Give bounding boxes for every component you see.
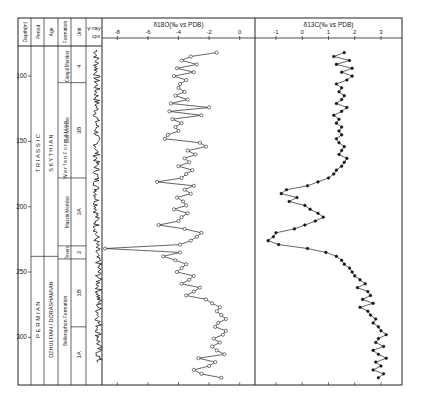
carbon-point xyxy=(369,314,372,317)
oxygen-point xyxy=(211,302,214,305)
oxygen-point xyxy=(174,94,177,97)
oxygen-point xyxy=(174,125,177,128)
header-age: Age xyxy=(48,27,54,36)
member-label: Campil Member xyxy=(65,50,70,82)
carbon-point xyxy=(343,51,346,54)
unit-label: 1A xyxy=(76,351,82,358)
oxygen-point xyxy=(178,243,181,246)
oxygen-point xyxy=(215,310,218,313)
carbon-point xyxy=(340,149,343,152)
carbon-point xyxy=(317,212,320,215)
carbon-point xyxy=(343,145,346,148)
carbon-point xyxy=(348,267,351,270)
oxygen-point xyxy=(191,169,194,172)
carbon-point xyxy=(367,290,370,293)
oxygen-point xyxy=(192,184,195,187)
carbon-tick-label: -1 xyxy=(273,29,279,35)
oxygen-point xyxy=(185,294,188,297)
carbon-point xyxy=(351,271,354,274)
oxygen-point xyxy=(172,208,175,211)
oxygen-point xyxy=(180,282,183,285)
header-period: Period xyxy=(35,25,41,40)
oxygen-point xyxy=(177,86,180,89)
oxygen-point xyxy=(215,349,218,352)
carbon-point xyxy=(338,153,341,156)
carbon-point xyxy=(343,94,346,97)
carbon-point xyxy=(296,196,299,199)
oxygen-point xyxy=(175,270,178,273)
carbon-point xyxy=(293,228,296,231)
oxygen-point xyxy=(214,325,217,328)
oxygen-point xyxy=(198,141,201,144)
oxygen-point xyxy=(204,145,207,148)
oxygen-point xyxy=(197,357,200,360)
carbon-point xyxy=(325,251,328,254)
period-label: T R I A S S I C xyxy=(35,133,41,172)
formation-label: Bellerophon Formation xyxy=(62,295,68,346)
oxygen-point xyxy=(189,55,192,58)
carbon-point xyxy=(351,67,354,70)
header-gamma-unit: cps xyxy=(92,33,100,39)
carbon-point xyxy=(304,204,307,207)
carbon-tick-label: 0 xyxy=(301,29,305,35)
header-unit: Unit xyxy=(76,27,82,37)
carbon-point xyxy=(314,220,317,223)
carbon-point xyxy=(335,122,338,125)
oxygen-point xyxy=(185,263,188,266)
oxygen-point xyxy=(183,227,186,230)
oxygen-point xyxy=(177,219,180,222)
oxygen-point xyxy=(192,368,195,371)
oxygen-point xyxy=(200,372,203,375)
carbon-point xyxy=(353,275,356,278)
oxygen-title: δ18O(‰ vs PDB) xyxy=(153,21,203,29)
depth-tick-label: 200 xyxy=(16,203,27,210)
carbon-point xyxy=(382,373,385,376)
carbon-point xyxy=(340,126,343,129)
unit-label: 3A xyxy=(76,208,82,215)
carbon-point xyxy=(335,63,338,66)
gamma-ray-curve xyxy=(93,50,102,363)
oxygen-tick-label: -4 xyxy=(176,29,182,35)
oxygen-point xyxy=(168,110,171,113)
oxygen-point xyxy=(178,251,181,254)
carbon-point xyxy=(346,157,349,160)
oxygen-point xyxy=(218,341,221,344)
oxygen-curve xyxy=(105,53,226,378)
carbon-point xyxy=(309,208,312,211)
carbon-point xyxy=(340,134,343,137)
carbon-point xyxy=(374,361,377,364)
oxygen-point xyxy=(186,149,189,152)
carbon-point xyxy=(372,302,375,305)
carbon-point xyxy=(280,192,283,195)
carbon-point xyxy=(317,181,320,184)
oxygen-isotope-panel: δ18O(‰ vs PDB)-8-6-4-20 xyxy=(102,21,255,385)
carbon-point xyxy=(285,188,288,191)
oxygen-point xyxy=(180,266,183,269)
oxygen-point xyxy=(162,255,165,258)
carbon-point xyxy=(364,282,367,285)
carbon-point xyxy=(346,106,349,109)
oxygen-point xyxy=(103,247,106,250)
carbon-point xyxy=(275,232,278,235)
unit-label: 3B xyxy=(76,127,82,134)
carbon-point xyxy=(382,345,385,348)
carbon-point xyxy=(385,333,388,336)
carbon-point xyxy=(340,110,343,113)
carbon-point xyxy=(327,177,330,180)
gamma-ray-log xyxy=(93,50,102,363)
carbon-isotope-panel: δ13C(‰ vs PDB)-10123 xyxy=(255,21,402,385)
oxygen-point xyxy=(188,278,191,281)
oxygen-point xyxy=(185,172,188,175)
oxygen-point xyxy=(220,313,223,316)
carbon-point xyxy=(304,224,307,227)
stratigraphic-columns: Depth(m)PeriodAgeFormationUnitγ-raycps10… xyxy=(16,21,101,359)
oxygen-point xyxy=(180,176,183,179)
oxygen-point xyxy=(175,196,178,199)
unit-label: 2 xyxy=(76,250,82,254)
oxygen-point xyxy=(171,118,174,121)
oxygen-point xyxy=(169,102,172,105)
oxygen-point xyxy=(208,364,211,367)
member-label: Mazzin Member xyxy=(65,195,70,228)
carbon-point xyxy=(377,326,380,329)
depth-tick-label: 300 xyxy=(16,333,27,340)
